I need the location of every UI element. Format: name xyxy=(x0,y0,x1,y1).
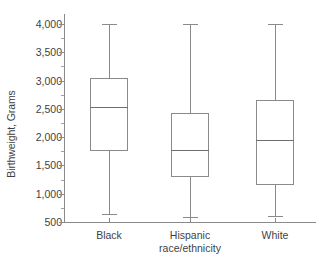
x-tick-hispanic xyxy=(190,218,191,222)
y-tick-major xyxy=(59,52,64,53)
y-tick-major xyxy=(59,81,64,82)
y-axis-title: Birthweight, Grams xyxy=(0,0,22,268)
y-tick-label: 3,000 xyxy=(22,76,62,87)
y-tick-minor xyxy=(61,95,64,96)
x-axis-line xyxy=(64,222,316,223)
y-axis-line xyxy=(64,14,65,223)
x-category-label-white: White xyxy=(230,229,320,241)
y-tick-label: 4,000 xyxy=(22,19,62,30)
box-black xyxy=(90,78,128,151)
whisker-upper-black xyxy=(109,24,110,78)
y-tick-minor xyxy=(61,180,64,181)
y-tick-major xyxy=(59,24,64,25)
y-tick-minor xyxy=(61,123,64,124)
box-hispanic xyxy=(171,113,209,177)
median-white xyxy=(256,140,294,141)
whisker-cap-upper-white xyxy=(268,24,283,25)
whisker-cap-upper-black xyxy=(102,24,117,25)
whisker-lower-white xyxy=(275,185,276,216)
y-tick-minor xyxy=(61,66,64,67)
whisker-upper-white xyxy=(275,24,276,100)
whisker-cap-lower-white xyxy=(268,216,283,217)
whisker-upper-hispanic xyxy=(190,24,191,113)
y-tick-major xyxy=(59,222,64,223)
whisker-cap-lower-black xyxy=(102,214,117,215)
y-tick-minor xyxy=(61,151,64,152)
y-tick-label: 2,000 xyxy=(22,132,62,143)
y-tick-label: 500 xyxy=(22,217,62,228)
x-tick-white xyxy=(275,218,276,222)
box-white xyxy=(256,100,294,185)
x-axis-title: race/ethnicity xyxy=(130,242,250,254)
x-tick-black xyxy=(109,218,110,222)
whisker-cap-upper-hispanic xyxy=(183,24,198,25)
y-tick-major xyxy=(59,137,64,138)
y-tick-minor xyxy=(61,38,64,39)
boxplot-chart: Birthweight, Grams 4,0003,5003,0002,5002… xyxy=(0,0,326,268)
y-tick-major xyxy=(59,165,64,166)
median-hispanic xyxy=(171,150,209,151)
y-tick-label: 2,500 xyxy=(22,104,62,115)
whisker-lower-hispanic xyxy=(190,177,191,217)
y-tick-label: 1,000 xyxy=(22,189,62,200)
x-category-label-hispanic: Hispanic xyxy=(145,229,235,241)
y-tick-minor xyxy=(61,208,64,209)
y-tick-label: 1,500 xyxy=(22,160,62,171)
y-tick-major xyxy=(59,194,64,195)
x-category-label-black: Black xyxy=(64,229,154,241)
median-black xyxy=(90,107,128,108)
y-axis-tick-labels: 4,0003,5003,0002,5002,0001,5001,000500 xyxy=(22,0,62,268)
y-tick-major xyxy=(59,109,64,110)
y-tick-label: 3,500 xyxy=(22,47,62,58)
whisker-lower-black xyxy=(109,151,110,214)
